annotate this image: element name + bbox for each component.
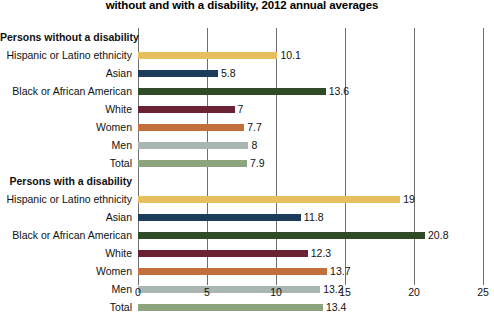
bar bbox=[138, 196, 400, 203]
bar-value-label: 12.3 bbox=[308, 244, 331, 262]
x-tick-label: 15 bbox=[330, 286, 360, 298]
category-label: Total bbox=[0, 298, 132, 315]
x-tick-label: 25 bbox=[468, 286, 494, 298]
category-label: Hispanic or Latino ethnicity bbox=[0, 46, 132, 64]
x-tick-mark-25 bbox=[483, 280, 484, 285]
bar bbox=[138, 88, 326, 95]
bar bbox=[138, 52, 277, 59]
x-tick-label: 20 bbox=[399, 286, 429, 298]
bar bbox=[138, 70, 218, 77]
bar-row: Black or African American20.8 bbox=[0, 226, 484, 244]
category-label: Men bbox=[0, 136, 132, 154]
chart-title: without and with a disability, 2012 annu… bbox=[0, 0, 484, 12]
bar bbox=[138, 214, 301, 221]
bar-row: White12.3 bbox=[0, 244, 484, 262]
category-label: White bbox=[0, 100, 132, 118]
bar-row: Men8 bbox=[0, 136, 484, 154]
category-label: Women bbox=[0, 262, 132, 280]
bar bbox=[138, 142, 248, 149]
x-tick-mark-15 bbox=[345, 280, 346, 285]
category-label: Black or African American bbox=[0, 226, 132, 244]
category-label: Women bbox=[0, 118, 132, 136]
group-header-label: Persons with a disability bbox=[0, 172, 132, 190]
bar bbox=[138, 304, 323, 311]
bar-value-label: 5.8 bbox=[218, 64, 236, 82]
bar-row: White7 bbox=[0, 100, 484, 118]
bar bbox=[138, 250, 308, 257]
group-header-label: Persons without a disability bbox=[0, 28, 132, 46]
x-tick-label: 0 bbox=[123, 286, 153, 298]
bar-row: Women7.7 bbox=[0, 118, 484, 136]
x-tick-mark-0 bbox=[138, 280, 139, 285]
group-header-row: Persons with a disability bbox=[0, 172, 484, 190]
x-tick-label: 5 bbox=[192, 286, 222, 298]
bar-value-label: 20.8 bbox=[425, 226, 448, 244]
bar-row: Hispanic or Latino ethnicity10.1 bbox=[0, 46, 484, 64]
bar bbox=[138, 106, 235, 113]
bar bbox=[138, 124, 244, 131]
bar-value-label: 7.7 bbox=[244, 118, 262, 136]
bar-value-label: 7.9 bbox=[247, 154, 265, 172]
category-label: Total bbox=[0, 154, 132, 172]
category-label: Men bbox=[0, 280, 132, 298]
x-axis: 0510152025 bbox=[138, 280, 483, 304]
category-label: Black or African American bbox=[0, 82, 132, 100]
category-label: White bbox=[0, 244, 132, 262]
bar-value-label: 11.8 bbox=[301, 208, 324, 226]
category-label: Asian bbox=[0, 64, 132, 82]
bar-value-label: 10.1 bbox=[277, 46, 300, 64]
x-tick-mark-5 bbox=[207, 280, 208, 285]
bar bbox=[138, 232, 425, 239]
bar-value-label: 19 bbox=[400, 190, 415, 208]
bar-value-label: 13.7 bbox=[327, 262, 350, 280]
bar-value-label: 7 bbox=[235, 100, 244, 118]
bar-row: Black or African American13.6 bbox=[0, 82, 484, 100]
bar-row: Total7.9 bbox=[0, 154, 484, 172]
bar bbox=[138, 160, 247, 167]
category-label: Asian bbox=[0, 208, 132, 226]
x-tick-label: 10 bbox=[261, 286, 291, 298]
category-label: Hispanic or Latino ethnicity bbox=[0, 190, 132, 208]
group-header-row: Persons without a disability bbox=[0, 28, 484, 46]
bar-row: Asian5.8 bbox=[0, 64, 484, 82]
x-tick-mark-20 bbox=[414, 280, 415, 285]
bar-row: Asian11.8 bbox=[0, 208, 484, 226]
x-tick-mark-10 bbox=[276, 280, 277, 285]
bar-value-label: 13.6 bbox=[326, 82, 349, 100]
bar bbox=[138, 268, 327, 275]
bar-value-label: 8 bbox=[248, 136, 257, 154]
bar-row: Women13.7 bbox=[0, 262, 484, 280]
bar-row: Hispanic or Latino ethnicity19 bbox=[0, 190, 484, 208]
